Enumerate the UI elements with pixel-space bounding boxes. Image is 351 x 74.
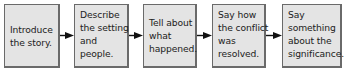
step-tell-what-happened: Tell about what happened. xyxy=(143,4,197,68)
step-text: what xyxy=(149,29,192,42)
narrative-flowchart: Introduce the story. Describe the settin… xyxy=(0,0,351,74)
step-text: Tell about xyxy=(149,16,192,29)
step-text: the story. xyxy=(10,36,55,49)
step-text: the setting xyxy=(80,21,124,34)
step-describe-setting: Describe the setting and people. xyxy=(74,4,129,68)
step-text: happened. xyxy=(149,42,192,55)
step-text: Say how xyxy=(218,8,261,21)
step-conflict-resolved: Say how the conflict was resolved. xyxy=(212,4,266,68)
step-text: significance. xyxy=(288,47,337,60)
arrow-right-icon xyxy=(197,31,212,40)
step-text: Say xyxy=(288,8,337,21)
step-text: Introduce xyxy=(10,23,55,36)
step-introduce-story: Introduce the story. xyxy=(4,4,60,68)
step-text: about the xyxy=(288,34,337,47)
step-text: something xyxy=(288,21,337,34)
step-text: the conflict xyxy=(218,21,261,34)
step-text: and xyxy=(80,34,124,47)
step-significance: Say something about the significance. xyxy=(282,4,342,68)
step-text: was xyxy=(218,34,261,47)
arrow-right-icon xyxy=(129,31,143,40)
step-text: Describe xyxy=(80,8,124,21)
step-text: people. xyxy=(80,47,124,60)
step-text: resolved. xyxy=(218,47,261,60)
arrow-right-icon xyxy=(60,31,74,40)
arrow-right-icon xyxy=(266,31,282,40)
